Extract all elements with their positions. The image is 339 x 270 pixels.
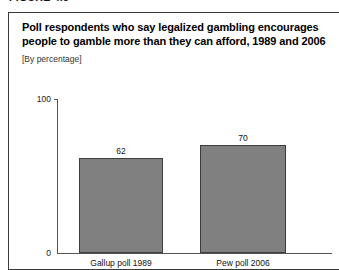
x-axis-line xyxy=(57,253,332,254)
plot-area: 100 0 62 70 Gallup poll 1989 Pew poll 20… xyxy=(9,13,339,270)
bar-value-gallup-poll-1989: 62 xyxy=(79,146,163,156)
x-axis-label-gallup-poll-1989: Gallup poll 1989 xyxy=(71,258,171,268)
figure-label: FIGURE 4.5 xyxy=(9,0,69,3)
y-axis-label-0: 0 xyxy=(23,248,51,258)
bar-gallup-poll-1989 xyxy=(79,158,163,253)
y-axis-tick-100 xyxy=(54,99,58,100)
y-axis-line xyxy=(57,99,58,253)
bar-value-pew-poll-2006: 70 xyxy=(200,133,286,143)
y-axis-label-100: 100 xyxy=(23,94,51,104)
x-axis-label-pew-poll-2006: Pew poll 2006 xyxy=(193,258,293,268)
figure-panel: Poll respondents who say legalized gambl… xyxy=(8,12,339,270)
bar-pew-poll-2006 xyxy=(200,145,286,253)
